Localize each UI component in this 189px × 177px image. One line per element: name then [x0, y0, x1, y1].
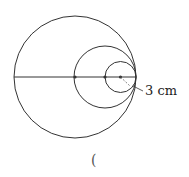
answer-paren: ( [91, 152, 96, 168]
radius-dashed-line [121, 77, 131, 86]
medium-center-dot [103, 75, 106, 78]
circles-diagram: 3 cm ( [0, 0, 189, 177]
radius-label: 3 cm [145, 83, 177, 98]
large-center-dot [73, 75, 76, 78]
